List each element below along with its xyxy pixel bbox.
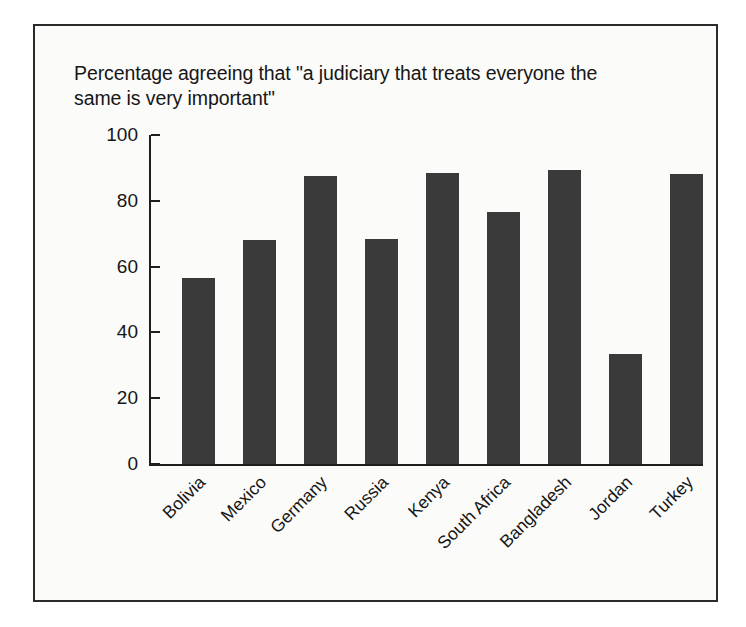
- bar: [609, 354, 642, 464]
- y-axis-tick-mark: [151, 266, 160, 268]
- bar: [243, 240, 276, 464]
- bar: [548, 170, 581, 464]
- x-axis-tick-label: Kenya: [403, 472, 453, 522]
- bar: [304, 176, 337, 464]
- y-axis-tick-label: 0: [127, 453, 138, 475]
- plot-area: 020406080100 BoliviaMexicoGermanyRussiaK…: [149, 135, 709, 464]
- x-axis-tick-label: Turkey: [645, 472, 697, 524]
- y-axis-tick-mark: [151, 331, 160, 333]
- bar: [487, 212, 520, 464]
- y-axis-tick-label: 80: [117, 190, 138, 212]
- y-axis-tick: 100: [149, 134, 160, 136]
- y-axis-tick: 60: [149, 266, 160, 268]
- chart-title: Percentage agreeing that "a judiciary th…: [74, 61, 674, 111]
- x-axis-tick-label: Mexico: [216, 472, 270, 526]
- y-axis-tick: 80: [149, 200, 160, 202]
- bar: [670, 174, 703, 464]
- y-axis-tick-mark: [151, 397, 160, 399]
- x-axis-tick-label: Russia: [340, 472, 393, 525]
- x-axis-tick-label: Bolivia: [158, 472, 209, 523]
- y-axis-tick-label: 60: [117, 256, 138, 278]
- bar: [426, 173, 459, 464]
- y-axis-tick-label: 100: [106, 124, 138, 146]
- y-axis-tick: 40: [149, 331, 160, 333]
- y-axis-tick-label: 20: [117, 387, 138, 409]
- y-axis-line: [149, 135, 151, 464]
- x-axis-line: [149, 464, 703, 466]
- bar: [365, 239, 398, 464]
- y-axis-tick-mark: [151, 134, 160, 136]
- y-axis-tick-mark: [151, 200, 160, 202]
- y-axis-tick: 0: [149, 463, 160, 465]
- x-axis-tick-label: Jordan: [584, 472, 637, 525]
- x-axis-tick-label: Germany: [266, 472, 332, 538]
- y-axis-tick: 20: [149, 397, 160, 399]
- y-axis-tick-mark: [151, 463, 160, 465]
- y-axis-tick-label: 40: [117, 321, 138, 343]
- bar: [182, 278, 215, 464]
- figure-frame: Percentage agreeing that "a judiciary th…: [33, 24, 718, 602]
